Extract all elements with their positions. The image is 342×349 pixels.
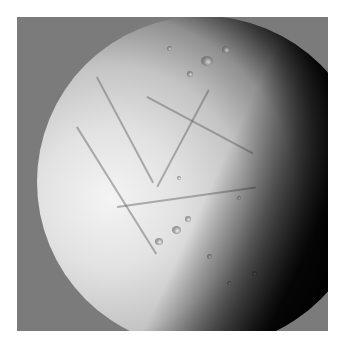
moon-sphere xyxy=(37,17,328,331)
photo-frame xyxy=(17,17,328,331)
terminator-shadow xyxy=(37,17,328,331)
